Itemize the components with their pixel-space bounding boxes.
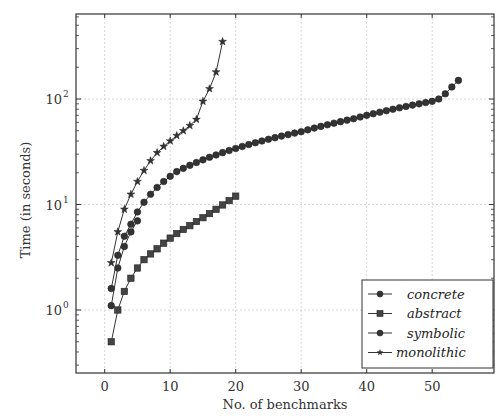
- svg-text:0: 0: [63, 300, 69, 310]
- x-tick-label: 20: [227, 379, 244, 394]
- series-symbolic: [108, 77, 462, 292]
- y-tick-label: 10: [45, 303, 62, 318]
- y-tick-label: 10: [45, 198, 62, 213]
- series-abstract: [108, 193, 239, 345]
- legend-label: symbolic: [407, 326, 466, 341]
- chart: 01020304050100101102 No. of benchmarks T…: [0, 0, 498, 418]
- series-monolithic: [107, 38, 226, 267]
- x-tick-label: 0: [101, 379, 109, 394]
- x-axis-label: No. of benchmarks: [223, 397, 348, 412]
- svg-text:2: 2: [63, 89, 69, 99]
- x-tick-label: 40: [358, 379, 375, 394]
- svg-text:1: 1: [63, 195, 69, 205]
- x-tick-label: 30: [293, 379, 310, 394]
- x-tick-label: 10: [162, 379, 179, 394]
- legend: concreteabstractsymbolicmonolithic: [362, 280, 493, 368]
- y-axis-label: Time (in seconds): [18, 142, 33, 259]
- legend-label: abstract: [407, 306, 462, 321]
- y-tick-label: 10: [45, 92, 62, 107]
- x-tick-label: 50: [424, 379, 441, 394]
- legend-label: concrete: [407, 287, 465, 302]
- legend-label: monolithic: [396, 345, 466, 360]
